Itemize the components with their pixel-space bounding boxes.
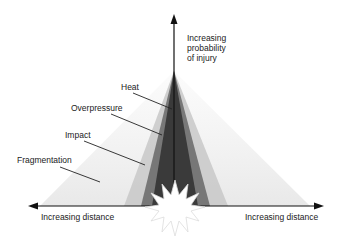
impact-label: Impact xyxy=(65,130,91,140)
x-axis-left-label: Increasing distance xyxy=(41,212,114,222)
y-axis-label-line-2: probability xyxy=(187,43,226,53)
x-axis-left-arrow-icon xyxy=(28,203,38,210)
heat-label: Heat xyxy=(121,82,139,92)
y-axis-label-line-1: Increasing xyxy=(187,33,226,43)
fragmentation-label: Fragmentation xyxy=(17,155,72,165)
overpressure-label: Overpressure xyxy=(71,103,123,113)
x-axis-right-arrow-icon xyxy=(314,203,324,210)
y-axis-label-line-3: of injury xyxy=(187,53,217,63)
y-axis-arrow-icon xyxy=(171,14,178,24)
injury-zones-diagram xyxy=(0,0,344,239)
x-axis-right-label: Increasing distance xyxy=(245,212,318,222)
